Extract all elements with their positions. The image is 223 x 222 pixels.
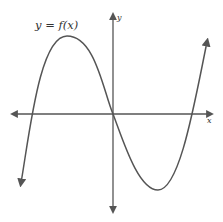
function-label: y = f(x) [34,18,78,32]
function-graph: y = f(x) y x [0,0,223,222]
x-axis-label: x [207,116,212,125]
y-axis-label: y [116,13,122,22]
function-curve [21,36,207,190]
